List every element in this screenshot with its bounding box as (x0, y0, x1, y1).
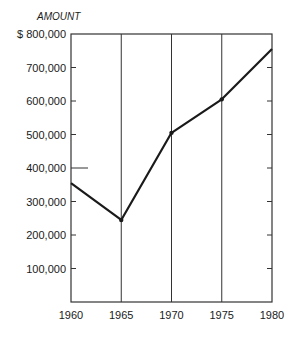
y-tick-label: $ 800,000 (17, 28, 66, 40)
y-tick-label: 600,000 (26, 95, 66, 107)
y-tick-label: 500,000 (26, 129, 66, 141)
plot-frame (71, 34, 272, 302)
data-point-marker (169, 131, 173, 135)
x-tick-label: 1975 (210, 309, 234, 321)
x-tick-label: 1965 (109, 309, 133, 321)
line-chart: $ 800,000700,000600,000500,000400,000300… (0, 0, 300, 341)
x-tick-label: 1960 (59, 309, 83, 321)
y-tick-label: 400,000 (26, 162, 66, 174)
y-axis-ticks: $ 800,000700,000600,000500,000400,000300… (17, 28, 272, 275)
x-tick-label: 1970 (159, 309, 183, 321)
y-tick-label: 300,000 (26, 196, 66, 208)
y-tick-label: 100,000 (26, 263, 66, 275)
data-point-marker (220, 97, 224, 101)
x-axis-ticks: 19601965197019751980 (59, 309, 284, 321)
y-tick-label: 700,000 (26, 62, 66, 74)
data-point-marker (119, 218, 123, 222)
y-tick-label: 200,000 (26, 229, 66, 241)
x-tick-label: 1980 (260, 309, 284, 321)
y-axis-title: AMOUNT (36, 11, 81, 22)
